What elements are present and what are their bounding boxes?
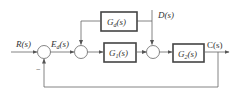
gd-output-arrow <box>81 21 101 45</box>
output-label: C(s) <box>207 40 223 50</box>
disturbance-label: D(s) <box>157 10 174 20</box>
g1-block-label: G1(s) <box>109 48 128 59</box>
input-signal: R(s) <box>11 39 37 52</box>
output-signal: C(s) <box>204 40 229 52</box>
error-signal: Ed(s) <box>50 39 74 52</box>
input-label: R(s) <box>15 39 31 49</box>
block-diagram: R(s) − Ed(s) Gd(s) G1(s) D(s) G2(s) C(s) <box>0 0 244 94</box>
gd-block-label: Gd(s) <box>107 17 126 28</box>
disturbance-signal: D(s) <box>152 10 174 45</box>
summing-junction-2 <box>75 46 88 59</box>
summing-junction-3 <box>147 46 160 59</box>
summing-junction-1 <box>38 46 51 59</box>
error-label: Ed(s) <box>50 39 69 50</box>
gd-branch: Gd(s) <box>81 12 152 45</box>
g2-block-label: G2(s) <box>178 49 197 60</box>
feedback-minus-sign: − <box>36 65 41 74</box>
